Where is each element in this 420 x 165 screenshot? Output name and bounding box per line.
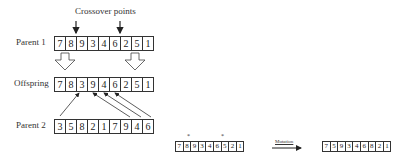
gene: 8 <box>77 120 88 133</box>
gene: 3 <box>199 142 207 151</box>
gene: 2 <box>88 120 99 133</box>
gene: 8 <box>369 142 377 151</box>
gene: 4 <box>132 120 143 133</box>
gene: 9 <box>121 120 132 133</box>
gene: 4 <box>99 37 110 50</box>
gene: 2 <box>121 78 132 91</box>
gene: 2 <box>376 142 384 151</box>
gene: 2 <box>121 37 132 50</box>
gene: 9 <box>338 142 346 151</box>
gene: 9 <box>88 78 99 91</box>
parent1-label: Parent 1 <box>16 37 46 47</box>
gene: 7 <box>176 142 184 151</box>
mutation-label: Mutation <box>275 139 293 144</box>
mutation-marker-2: * <box>221 133 224 139</box>
gene: 3 <box>88 37 99 50</box>
gene: 4 <box>99 78 110 91</box>
gene: 1 <box>99 120 110 133</box>
gene: 7 <box>55 37 66 50</box>
gene: 5 <box>132 78 143 91</box>
gene: 6 <box>143 120 153 133</box>
gene: 5 <box>331 142 339 151</box>
gene: 2 <box>229 142 237 151</box>
gene: 1 <box>384 142 391 151</box>
post-mutation-chromosome: 7 5 9 3 4 6 8 2 1 <box>322 141 391 152</box>
gene: 3 <box>55 120 66 133</box>
gene: 3 <box>346 142 354 151</box>
gene: 6 <box>110 37 121 50</box>
gene: 7 <box>110 120 121 133</box>
gene: 8 <box>66 37 77 50</box>
gene: 9 <box>77 37 88 50</box>
gene: 1 <box>237 142 244 151</box>
parent1-chromosome: 7 8 9 3 4 6 2 5 1 <box>54 36 154 51</box>
gene: 7 <box>323 142 331 151</box>
hollow-down-arrows <box>55 53 145 70</box>
gene: 6 <box>214 142 222 151</box>
gene: 5 <box>132 37 143 50</box>
gene: 7 <box>55 78 66 91</box>
gene: 3 <box>77 78 88 91</box>
gene: 5 <box>222 142 230 151</box>
gene: 8 <box>66 78 77 91</box>
mutation-marker-1: * <box>187 133 190 139</box>
gene: 9 <box>191 142 199 151</box>
inheritance-arrows <box>60 93 151 117</box>
pre-mutation-chromosome: 7 8 9 3 4 6 5 2 1 <box>175 141 244 152</box>
gene: 1 <box>143 37 153 50</box>
parent2-chromosome: 3 5 8 2 1 7 9 4 6 <box>54 119 154 134</box>
offspring-chromosome: 7 8 3 9 4 6 2 5 1 <box>54 77 154 92</box>
crossover-point-arrows <box>76 21 120 33</box>
parent2-label: Parent 2 <box>16 120 46 130</box>
gene: 6 <box>361 142 369 151</box>
offspring-label: Offspring <box>14 78 49 88</box>
gene: 4 <box>206 142 214 151</box>
gene: 4 <box>353 142 361 151</box>
crossover-points-title: Crossover points <box>75 6 136 16</box>
gene: 1 <box>143 78 153 91</box>
gene: 6 <box>110 78 121 91</box>
gene: 8 <box>184 142 192 151</box>
gene: 5 <box>66 120 77 133</box>
